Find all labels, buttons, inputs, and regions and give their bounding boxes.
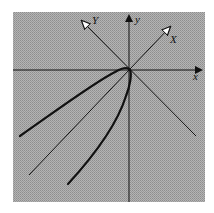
rotated-x-axis-label: X xyxy=(169,33,178,45)
y-axis-label: y xyxy=(134,13,140,25)
rotated-parabola-diagram: x y X Y xyxy=(0,0,214,213)
x-axis-label: x xyxy=(192,70,198,82)
